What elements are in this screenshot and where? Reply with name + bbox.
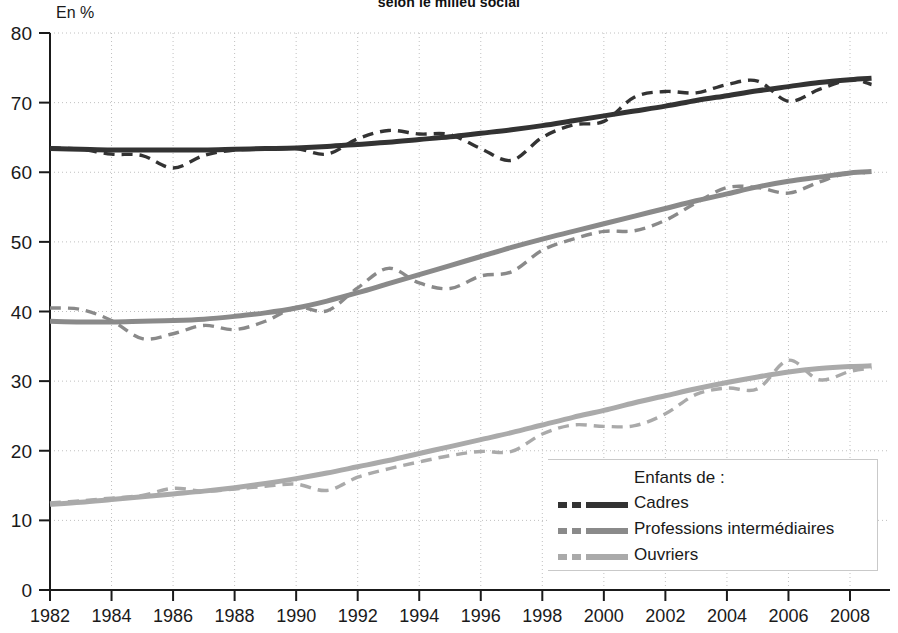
- x-tick-label: 1982: [30, 606, 70, 626]
- legend-swatch-ouvriers: [558, 554, 628, 560]
- legend-item-cadres[interactable]: Cadres: [558, 494, 876, 520]
- legend-item-ouvriers[interactable]: Ouvriers: [558, 546, 876, 572]
- y-tick-labels: 01020304050607080: [11, 23, 32, 601]
- legend-label-professions-intermediaires: Professions intermédiaires: [634, 519, 834, 539]
- y-tick-label: 0: [21, 580, 32, 601]
- y-tick-label: 30: [11, 371, 32, 392]
- legend-title: Enfants de :: [634, 468, 725, 488]
- y-tick-label: 60: [11, 162, 32, 183]
- y-tick-label: 20: [11, 441, 32, 462]
- legend-item-professions-intermediaires[interactable]: Professions intermédiaires: [558, 520, 876, 546]
- x-tick-label: 1988: [215, 606, 255, 626]
- x-tick-label: 2006: [768, 606, 808, 626]
- x-tick-label: 2000: [584, 606, 624, 626]
- chart-container: selon le milieu social En % 010203040506…: [0, 0, 898, 633]
- x-tick-label: 2004: [707, 606, 747, 626]
- x-tick-label: 1984: [92, 606, 132, 626]
- series-line: [50, 172, 872, 322]
- x-tick-label: 1992: [338, 606, 378, 626]
- y-tick-label: 40: [11, 302, 32, 323]
- y-tick-label: 70: [11, 93, 32, 114]
- legend-swatch-professions-intermediaires: [558, 528, 628, 534]
- x-tick-label: 1990: [276, 606, 316, 626]
- x-tick-label: 1986: [153, 606, 193, 626]
- y-tick-label: 10: [11, 510, 32, 531]
- legend: Enfants de : Cadres Professions interméd…: [548, 459, 878, 571]
- x-tick-label: 1996: [461, 606, 501, 626]
- x-tick-label: 1994: [399, 606, 439, 626]
- legend-swatch-cadres: [558, 502, 628, 508]
- x-tick-label: 1998: [522, 606, 562, 626]
- legend-label-cadres: Cadres: [634, 493, 689, 513]
- x-tick-labels: 1982198419861988199019921994199619982000…: [30, 606, 870, 626]
- series-line: [50, 172, 872, 339]
- y-tick-label: 50: [11, 232, 32, 253]
- legend-label-ouvriers: Ouvriers: [634, 545, 698, 565]
- x-tick-label: 2002: [645, 606, 685, 626]
- series-layer: [50, 78, 872, 504]
- x-tick-label: 2008: [830, 606, 870, 626]
- y-tick-label: 80: [11, 23, 32, 44]
